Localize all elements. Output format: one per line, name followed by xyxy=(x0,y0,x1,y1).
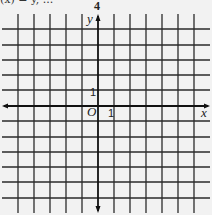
vertical-grid-lines xyxy=(18,14,194,213)
y-axis-bottom-arrow-icon xyxy=(96,206,101,213)
x-axis-left-arrow-icon xyxy=(2,104,8,109)
coordinate-grid-figure: (x) = y, ... xyxy=(0,0,212,215)
origin-label: O xyxy=(87,104,96,120)
x-axis-label: x xyxy=(201,105,207,121)
top-number-label: 4 xyxy=(94,0,100,14)
y-axis-label: y xyxy=(87,11,93,27)
horizontal-grid-lines xyxy=(2,29,210,198)
grid-svg xyxy=(0,0,212,215)
x-unit-label: 1 xyxy=(108,107,114,119)
y-axis-top-arrow-icon xyxy=(96,14,101,21)
y-unit-label: 1 xyxy=(90,86,96,98)
